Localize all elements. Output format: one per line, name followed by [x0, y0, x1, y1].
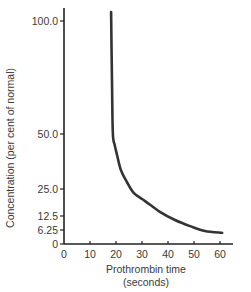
- x-tick-label: 10: [84, 248, 96, 260]
- x-axis-title-line2: (seconds): [123, 276, 169, 288]
- x-tick-label: 60: [214, 248, 226, 260]
- y-tick-label: 50.0: [38, 128, 59, 140]
- x-axis-title-line1: Prothrombin time: [106, 263, 186, 275]
- y-ticks: 06.2512.525.050.0100.0: [32, 15, 64, 250]
- y-axis-title: Concentration (per cent of normal): [4, 68, 16, 228]
- y-tick-label: 100.0: [32, 15, 58, 27]
- y-tick-label: 12.5: [38, 210, 59, 222]
- chart-canvas: 06.2512.525.050.0100.0 0102030405060 Con…: [0, 0, 251, 292]
- x-tick-label: 20: [110, 248, 122, 260]
- x-tick-label: 40: [162, 248, 174, 260]
- y-tick-label: 25.0: [38, 183, 59, 195]
- x-tick-label: 50: [188, 248, 200, 260]
- data-line-concentration: [111, 12, 222, 233]
- axes: [64, 8, 233, 244]
- y-tick-label: 0: [52, 238, 58, 250]
- y-tick-label: 6.25: [38, 224, 59, 236]
- x-tick-label: 30: [136, 248, 148, 260]
- x-tick-label: 0: [61, 248, 67, 260]
